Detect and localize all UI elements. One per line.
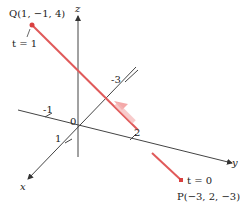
diagram-canvas: y z x 0 -3 -1 1 2 Q(1, −1, 4) t = 1 t = … <box>0 0 246 211</box>
line-segment-qp <box>32 25 181 180</box>
point-q-param: t = 1 <box>12 38 37 49</box>
tick-label-2: 2 <box>134 127 140 138</box>
z-axis-label: z <box>74 3 81 14</box>
point-p-label: P(−3, 2, −3) <box>177 191 240 202</box>
y-axis-label: y <box>231 157 238 168</box>
point-q <box>30 23 35 28</box>
tick-label-1: 1 <box>55 133 61 144</box>
point-p <box>179 178 183 182</box>
origin-label: 0 <box>70 116 76 127</box>
point-q-label: Q(1, −1, 4) <box>9 8 65 19</box>
tick-label-neg3: -3 <box>111 74 121 85</box>
x-axis-label: x <box>20 181 26 192</box>
point-p-param: t = 0 <box>187 175 212 186</box>
q-leader <box>27 29 30 37</box>
tick-label-neg1: -1 <box>43 104 53 115</box>
